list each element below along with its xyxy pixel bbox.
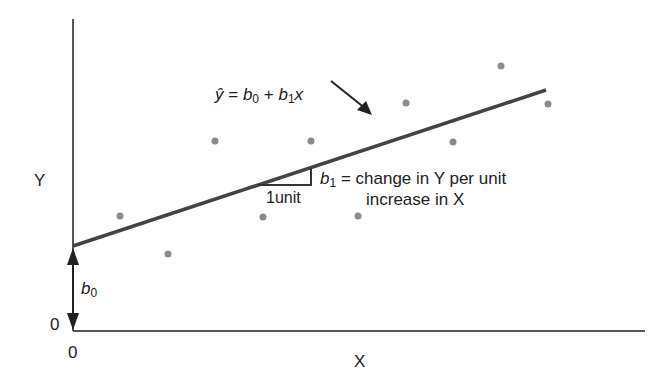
arrow-down-icon [67,313,79,330]
equation-pointer-arrow [331,81,366,109]
intercept-label: b0 [81,280,97,299]
y-axis-label: Y [34,172,45,189]
run-label: 1unit [266,190,301,206]
regression-equation: ŷ = b0 + b1x [215,86,303,105]
x-axis-label: X [354,353,365,370]
regression-line [73,90,546,246]
slope-label-line2: increase in X [366,191,464,208]
arrow-up-icon [67,248,79,265]
slope-label: b1 = change in Y per unit [320,170,506,189]
origin-y-label: 0 [50,316,59,333]
regression-diagram [0,0,672,389]
origin-x-label: 0 [68,344,77,361]
